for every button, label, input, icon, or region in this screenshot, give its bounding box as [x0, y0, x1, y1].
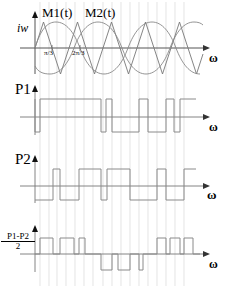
axis-y-arrow-modulation	[32, 11, 38, 18]
x-axis-label-omega-p2: ω	[207, 188, 217, 201]
signal-label-m1: M1(t)	[42, 6, 72, 19]
waveform-p2	[35, 169, 196, 200]
panel-p1	[20, 85, 210, 135]
signal-label-p1-minus-p2-over-2: P1-P2 2	[1, 232, 35, 252]
signal-label-p1: P1	[15, 82, 31, 97]
tick-label-pi-over-3: π/3	[44, 50, 53, 57]
signal-label-p2: P2	[15, 152, 31, 167]
x-axis-label-omega-p1p2: ω	[209, 258, 218, 270]
panel-modulation	[20, 11, 210, 74]
waveform-p1	[35, 99, 196, 132]
panel-p1-minus-p2	[20, 225, 210, 272]
vertical-gridlines	[40, 2, 184, 286]
tick-label-2pi-over-3: 2π/3	[72, 50, 84, 57]
x-axis-label-omega-modulation: ω	[209, 52, 218, 64]
signal-label-m2: M2(t)	[85, 6, 115, 19]
axis-y-arrow-p1p2	[32, 225, 38, 232]
figure-canvas: iw M1(t) M2(t) π/3 2π/3 ω P1 ω P2 ω P1-P…	[0, 0, 226, 288]
axis-y-arrow-p1	[32, 85, 38, 92]
panel-p2	[20, 155, 210, 203]
x-axis-label-omega-p1: ω	[209, 121, 218, 133]
axis-y-arrow-p2	[32, 155, 38, 162]
y-axis-label-iw: iw	[17, 22, 28, 34]
fraction-denominator: 2	[1, 242, 35, 251]
